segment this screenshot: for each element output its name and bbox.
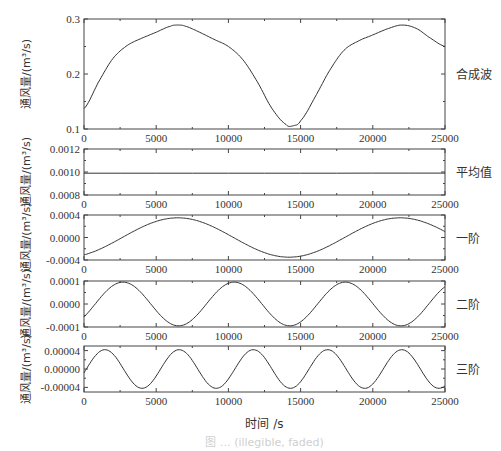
- y-tick-label: 0.2: [66, 68, 80, 80]
- y-tick-label: 0.0012: [50, 143, 80, 155]
- y-axis-label: 通风量/(m³/s): [20, 137, 33, 207]
- data-line: [84, 218, 445, 257]
- x-tick-label: 10000: [215, 132, 243, 144]
- y-tick-label: 0.00004: [44, 345, 80, 357]
- x-tick-label: 5000: [145, 395, 168, 407]
- x-tick-label: 5000: [145, 263, 168, 275]
- figure-caption: 图 … (illegible, faded): [205, 436, 324, 449]
- y-tick-label: 0.1: [66, 123, 80, 135]
- y-tick-label: 0.00000: [44, 363, 80, 375]
- panel-label: 平均值: [456, 165, 492, 180]
- y-tick-label: -0.00004: [41, 381, 81, 393]
- panel-label: 三阶: [456, 363, 480, 377]
- panel-mean-value: 05000100001500020000250000.00080.00100.0…: [20, 137, 492, 210]
- x-tick-label: 10000: [215, 330, 243, 342]
- data-line: [84, 350, 445, 389]
- data-line: [84, 25, 445, 127]
- x-tick-label: 20000: [359, 263, 387, 275]
- y-tick-label: -0.0004: [46, 254, 80, 266]
- plot-frame: [84, 215, 445, 260]
- y-tick-label: 0.0010: [50, 166, 81, 178]
- y-axis-label: 通风量/(m³/s): [20, 334, 33, 404]
- x-tick-label: 0: [81, 330, 87, 342]
- y-tick-label: 0.0008: [50, 189, 81, 201]
- x-tick-label: 0: [81, 395, 87, 407]
- panel-label: 一阶: [456, 232, 480, 246]
- x-tick-label: 10000: [215, 198, 243, 210]
- y-axis-label: 通风量/(m³/s): [20, 39, 33, 109]
- x-tick-label: 20000: [359, 198, 387, 210]
- x-tick-label: 25000: [431, 198, 459, 210]
- x-tick-label: 25000: [431, 263, 459, 275]
- x-axis-label: 时间 /s: [245, 417, 283, 431]
- y-tick-label: 0.0000: [50, 232, 81, 244]
- x-tick-label: 20000: [359, 395, 387, 407]
- x-tick-label: 20000: [359, 330, 387, 342]
- x-tick-label: 15000: [287, 263, 315, 275]
- x-tick-label: 20000: [359, 132, 387, 144]
- x-tick-label: 5000: [145, 330, 168, 342]
- y-tick-label: 0.0001: [50, 275, 80, 287]
- data-line: [84, 282, 445, 326]
- y-tick-label: 0.0000: [50, 298, 81, 310]
- panel-label: 合成波: [456, 67, 492, 82]
- x-tick-label: 0: [81, 198, 87, 210]
- y-axis-label: 通风量/(m³/s): [20, 203, 33, 273]
- panel-label: 二阶: [456, 298, 480, 312]
- x-tick-label: 10000: [215, 263, 243, 275]
- x-tick-label: 15000: [287, 198, 315, 210]
- x-tick-label: 5000: [145, 198, 168, 210]
- plot-frame: [84, 281, 445, 327]
- x-tick-label: 25000: [431, 132, 459, 144]
- y-tick-label: 0.0004: [50, 209, 81, 221]
- plot-frame: [84, 346, 445, 392]
- plot-frame: [84, 149, 445, 195]
- panel-third-order: 0500010000150002000025000-0.000040.00000…: [20, 334, 480, 407]
- stacked-time-series-chart: 05000100001500020000250000.10.20.3合成波通风量…: [0, 0, 501, 451]
- y-axis-label: 通风量/(m³/s): [20, 269, 33, 339]
- y-tick-label: -0.0001: [46, 321, 80, 333]
- panel-first-order: 0500010000150002000025000-0.00040.00000.…: [20, 203, 480, 275]
- panel-composite-wave: 05000100001500020000250000.10.20.3合成波通风量…: [20, 13, 492, 144]
- x-tick-label: 0: [81, 263, 87, 275]
- x-tick-label: 15000: [287, 395, 315, 407]
- plot-frame: [84, 19, 445, 129]
- x-tick-label: 10000: [215, 395, 243, 407]
- x-tick-label: 15000: [287, 132, 315, 144]
- x-tick-label: 25000: [431, 395, 459, 407]
- x-tick-label: 0: [81, 132, 87, 144]
- x-tick-label: 15000: [287, 330, 315, 342]
- panel-second-order: 0500010000150002000025000-0.00010.00000.…: [20, 269, 480, 342]
- x-tick-label: 25000: [431, 330, 459, 342]
- y-tick-label: 0.3: [66, 13, 80, 25]
- x-tick-label: 5000: [145, 132, 168, 144]
